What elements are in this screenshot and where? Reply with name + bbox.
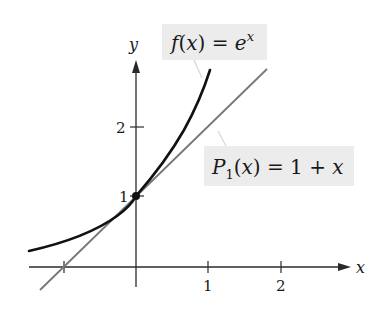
p-label-leader <box>218 131 226 146</box>
y-axis <box>130 60 144 287</box>
x-axis-label: x <box>356 258 365 277</box>
x-axis-arrow-icon <box>338 263 351 271</box>
y-tick-label-2: 2 <box>116 119 126 137</box>
tangency-point <box>132 192 140 200</box>
chart-canvas: x y 1 2 1 2 f(x) = ex P1(x) = 1 + x <box>0 0 385 316</box>
f-label: f(x) = ex <box>169 29 255 55</box>
y-tick-label-1: 1 <box>119 188 129 206</box>
y-axis-label: y <box>128 35 139 54</box>
x-tick-label-2: 2 <box>276 277 286 295</box>
exp-curve <box>29 70 210 251</box>
y-axis-arrow-icon <box>132 60 140 73</box>
x-axis <box>29 261 351 273</box>
f-label-leader <box>194 60 202 78</box>
x-tick-label-1: 1 <box>203 277 213 295</box>
taylor-polynomial-figure: x y 1 2 1 2 f(x) = ex P1(x) = 1 + x <box>0 0 385 316</box>
